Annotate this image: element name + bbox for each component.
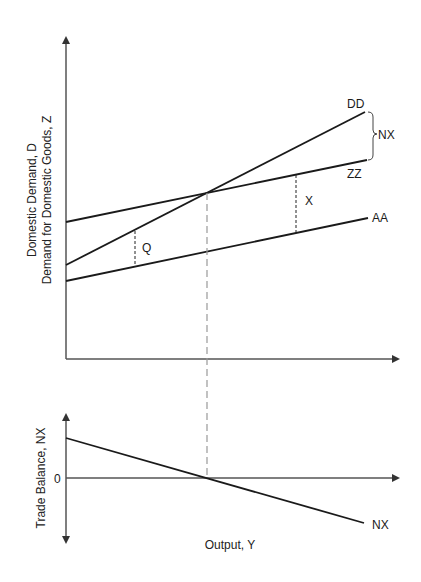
q-gap-label: Q [142,241,151,255]
zz-label: ZZ [347,167,362,181]
aa-line [66,218,368,281]
nx-line [66,438,364,523]
bottom-y-label: Trade Balance, NX [34,428,48,529]
x-axis-label: Output, Y [205,538,255,552]
dd-line [66,112,365,265]
zz-line [66,160,367,222]
diagram: DD NX ZZ X AA Q Domestic Demand, D Deman… [0,0,421,582]
top-y-label-line1: Domestic Demand, D [25,143,39,257]
x-gap-label: X [305,194,313,208]
nx-brace-label: NX [378,128,395,142]
nx-line-label: NX [372,518,389,532]
nx-brace [368,112,377,160]
top-y-label-line2: Demand for Domestic Goods, Z [40,116,54,285]
zero-tick-label: 0 [54,472,61,486]
dd-label: DD [347,97,365,111]
aa-label: AA [372,211,388,225]
